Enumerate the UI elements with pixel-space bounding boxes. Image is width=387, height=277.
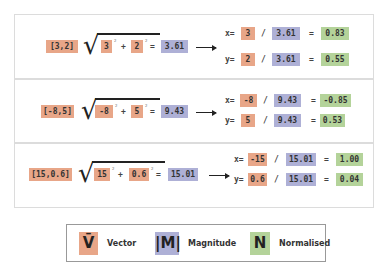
legend-normalised-label: Normalised [279,232,330,255]
sqrt-icon: √ [78,160,95,186]
x-magnitude: 9.43 [274,94,301,107]
x-normalised: 1.00 [336,153,363,166]
equals-sign: = [150,40,155,53]
squared-sup: 2 [151,166,153,171]
x-label: x= [225,27,235,40]
component-a: 3 [101,40,112,53]
x-magnitude: 15.01 [286,153,316,166]
equals-sign: = [311,114,316,127]
y-numerator: 0.6 [248,173,267,186]
component-b: 2 [131,40,143,53]
magnitude-box: 3.61 [161,40,188,53]
x-normalised: 0.83 [321,27,349,40]
divide-sign: / [261,53,266,66]
equals-sign: = [309,53,314,66]
equals-sign: = [150,105,155,118]
plus-sign: + [121,105,126,118]
y-numerator: 5 [241,114,255,127]
normalised-swatch-icon: N [250,232,270,255]
y-label: y= [225,114,235,127]
component-b: 0.6 [129,168,149,181]
x-numerator: -15 [248,153,267,166]
y-numerator: 2 [241,53,255,66]
y-normalised: 0.04 [336,173,363,186]
y-normalised: 0.55 [321,53,349,66]
x-label: x= [234,153,244,166]
x-numerator: 3 [241,27,255,40]
sqrt-icon: √ [83,32,100,58]
magnitude-swatch-icon: |M| [155,232,179,255]
divide-sign: / [261,27,266,40]
squared-sup: 2 [145,38,147,43]
divide-sign: / [263,94,268,107]
sqrt-overbar [97,33,160,35]
equals-sign: = [324,153,329,166]
plus-sign: + [118,168,123,181]
component-a: 15 [94,168,110,181]
legend-vector-label: Vector [107,232,136,255]
magnitude-box: 9.43 [161,105,188,118]
squared-sup: 2 [145,103,147,108]
y-magnitude: 9.43 [274,114,301,127]
x-normalised: -0.85 [320,94,351,107]
y-magnitude: 3.61 [272,53,300,66]
x-numerator: -8 [240,94,257,107]
squared-sup: 2 [114,38,116,43]
sqrt-overbar [92,161,165,163]
arrow-right-icon [196,112,216,113]
vector-swatch-icon: V̄ [79,232,98,255]
row-panel-3: [15,0.6] √ 15 2 + 0.6 2 = 15.01 x= -15 /… [14,143,374,208]
x-label: x= [225,94,235,107]
divide-sign: / [274,173,279,186]
component-a: -8 [95,105,113,118]
component-b: 5 [131,105,143,118]
equals-sign: = [311,94,316,107]
arrow-right-icon [209,175,229,176]
magnitude-box: 15.01 [168,168,198,181]
plus-sign: + [121,40,126,53]
equals-sign: = [156,168,161,181]
legend: V̄ Vector |M| Magnitude N Normalised [66,224,326,262]
divide-sign: / [263,114,268,127]
squared-sup: 2 [115,103,117,108]
row-panel-2: [-8,5] √ -8 2 + 5 2 = 9.43 x= -8 / 9.43 … [14,79,374,143]
vector-box: [15,0.6] [29,168,72,181]
squared-sup: 2 [112,166,114,171]
vector-box: [-8,5] [41,105,74,118]
equals-sign: = [324,173,329,186]
x-magnitude: 3.61 [272,27,300,40]
y-normalised: 0.53 [320,114,345,127]
legend-magnitude-label: Magnitude [188,232,236,255]
arrow-right-icon [196,47,216,48]
y-label: y= [225,53,235,66]
vector-box: [3,2] [46,40,78,53]
row-panel-1: [3,2] √ 3 2 + 2 2 = 3.61 x= 3 / 3.61 = 0… [14,14,374,79]
y-magnitude: 15.01 [286,173,316,186]
y-label: y= [234,173,244,186]
equals-sign: = [309,27,314,40]
sqrt-overbar [95,98,160,100]
divide-sign: / [274,153,279,166]
